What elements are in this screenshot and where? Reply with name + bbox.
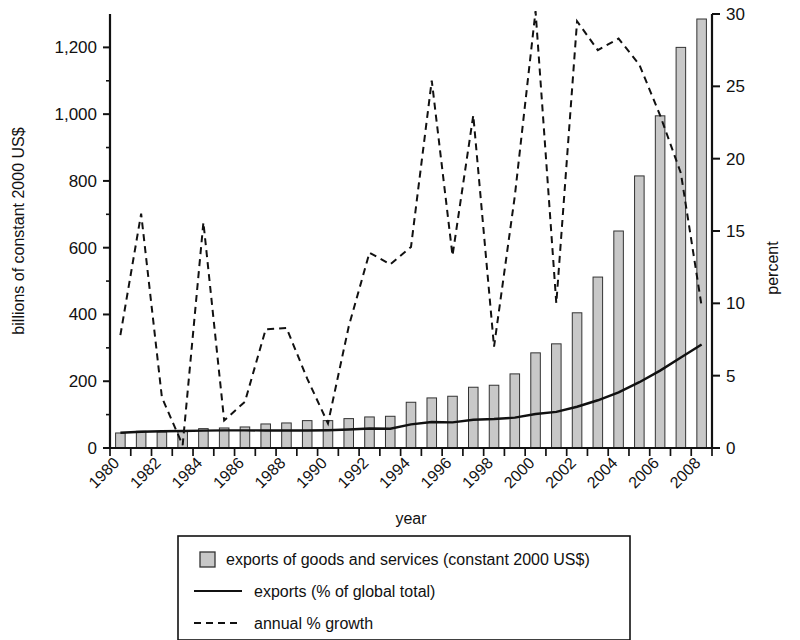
- bar-2008: [697, 19, 707, 448]
- x-tick-label-2008: 2008: [667, 454, 704, 491]
- y-tick-label-left: 600: [69, 239, 97, 258]
- legend-label-bars: exports of goods and services (constant …: [226, 551, 590, 568]
- y-tick-label-right: 25: [726, 77, 745, 96]
- chart-canvas: 02004006008001,0001,20005101520253019801…: [0, 0, 800, 640]
- x-tick-label-2002: 2002: [542, 454, 579, 491]
- bar-1981: [136, 431, 146, 448]
- bar-1989: [302, 421, 312, 448]
- chart-svg: 02004006008001,0001,20005101520253019801…: [0, 0, 800, 640]
- x-axis-title: year: [395, 510, 427, 527]
- x-tick-label-2006: 2006: [625, 454, 662, 491]
- y-tick-label-left: 0: [88, 439, 97, 458]
- bar-2007: [676, 47, 686, 448]
- y-tick-label-right: 20: [726, 150, 745, 169]
- x-tick-label-1980: 1980: [85, 454, 122, 491]
- y-axis-title-right: percent: [764, 241, 781, 295]
- x-tick-label-1990: 1990: [293, 454, 330, 491]
- bar-1991: [344, 419, 354, 448]
- x-tick-label-1986: 1986: [210, 454, 247, 491]
- x-tick-label-1992: 1992: [334, 454, 371, 491]
- y-tick-label-left: 200: [69, 372, 97, 391]
- bar-1987: [261, 424, 271, 448]
- bar-2004: [614, 231, 624, 448]
- bar-2003: [593, 277, 603, 448]
- bar-2000: [531, 353, 541, 448]
- y-tick-label-right: 0: [726, 439, 735, 458]
- x-tick-label-2000: 2000: [500, 454, 537, 491]
- y-tick-label-right: 15: [726, 222, 745, 241]
- y-tick-label-left: 400: [69, 305, 97, 324]
- bar-1982: [157, 432, 167, 448]
- legend-swatch-bars: [200, 552, 215, 567]
- x-tick-label-1996: 1996: [417, 454, 454, 491]
- y-tick-label-right: 5: [726, 367, 735, 386]
- legend-label-growth: annual % growth: [254, 615, 373, 632]
- bar-2002: [572, 313, 582, 448]
- bars-group: [116, 19, 707, 448]
- bar-2001: [552, 344, 562, 448]
- y-tick-label-right: 30: [726, 5, 745, 24]
- x-tick-label-1982: 1982: [127, 454, 164, 491]
- legend-label-share: exports (% of global total): [254, 583, 435, 600]
- bar-1992: [365, 417, 375, 448]
- bar-1998: [489, 385, 499, 448]
- x-tick-label-1998: 1998: [459, 454, 496, 491]
- y-tick-label-left: 1,200: [54, 38, 97, 57]
- bar-2006: [655, 116, 665, 448]
- legend-group: exports of goods and services (constant …: [178, 536, 630, 640]
- chart-figure: 02004006008001,0001,20005101520253019801…: [0, 0, 800, 640]
- y-tick-label-left: 800: [69, 172, 97, 191]
- bar-1980: [116, 433, 126, 448]
- x-tick-label-1994: 1994: [376, 454, 413, 491]
- x-tick-label-1984: 1984: [168, 454, 205, 491]
- bar-1993: [385, 416, 395, 448]
- bar-1999: [510, 374, 520, 448]
- bar-1997: [469, 387, 479, 448]
- x-tick-label-1988: 1988: [251, 454, 288, 491]
- y-tick-label-left: 1,000: [54, 105, 97, 124]
- y-axis-title-left: billions of constant 2000 US$: [10, 127, 27, 334]
- bar-2005: [635, 176, 645, 448]
- x-tick-label-2004: 2004: [584, 454, 621, 491]
- bar-1988: [282, 423, 292, 448]
- y-tick-label-right: 10: [726, 294, 745, 313]
